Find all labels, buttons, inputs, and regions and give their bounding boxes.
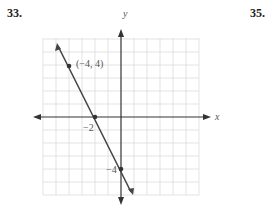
y-axis-label: y xyxy=(122,8,128,19)
coordinate-graph: y x (−4, 4) −2 −4 xyxy=(0,0,271,207)
point-label-neg2: −2 xyxy=(83,122,94,133)
point-label-neg4: −4 xyxy=(106,164,117,175)
axes xyxy=(36,32,208,202)
point-label-neg4-4: (−4, 4) xyxy=(76,58,103,70)
x-axis-label: x xyxy=(214,111,220,122)
